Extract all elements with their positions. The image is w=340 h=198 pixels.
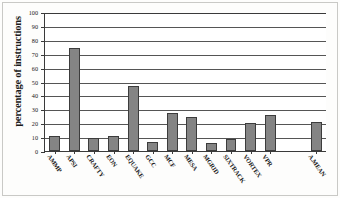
y-tick-label-80: 80 bbox=[32, 37, 38, 44]
bar-vpr bbox=[265, 115, 276, 151]
x-axis-label-gcc: GCC bbox=[144, 153, 158, 168]
bar-sixtrack bbox=[226, 139, 237, 151]
x-axis-label-mgrid: MGRID bbox=[203, 153, 221, 175]
y-tick-label-50: 50 bbox=[32, 79, 38, 86]
bar-mcf bbox=[167, 113, 178, 151]
x-axis-label-eon: EON bbox=[105, 153, 119, 168]
bar-vortex bbox=[245, 123, 256, 151]
y-axis-title: percentage of instructions bbox=[12, 2, 23, 142]
bar-chart-figure: percentage of instructions 0102030405060… bbox=[0, 0, 340, 198]
x-axis-labels: AMMPAPSICRAFTYEONEQUAKEGCCMCFMESAMGRIDSI… bbox=[44, 153, 326, 198]
y-tick-label-100: 100 bbox=[29, 9, 38, 16]
bar-ammp bbox=[49, 136, 60, 151]
x-axis-label-apsi: APSI bbox=[66, 153, 80, 169]
y-tick-label-20: 20 bbox=[32, 120, 38, 127]
bar-crafty bbox=[88, 138, 99, 151]
bar-eon bbox=[108, 136, 119, 151]
y-tick-label-70: 70 bbox=[32, 51, 38, 58]
x-axis-label-ammp: AMMP bbox=[46, 153, 63, 174]
y-tick-label-60: 60 bbox=[32, 65, 38, 72]
x-axis-label-mcf: MCF bbox=[164, 153, 178, 169]
y-tick-label-0: 0 bbox=[35, 148, 38, 155]
bar-gcc bbox=[147, 142, 158, 151]
bars-group bbox=[45, 13, 326, 151]
x-axis-label-crafty: CRAFTY bbox=[85, 153, 106, 178]
x-axis-label-amean: A.MEAN bbox=[307, 153, 327, 178]
bar-amean bbox=[311, 122, 322, 151]
x-axis-label-vpr: VPR bbox=[261, 153, 274, 168]
x-axis-label-mesa: MESA bbox=[183, 153, 199, 172]
bar-mgrid bbox=[206, 143, 217, 151]
y-tick-label-40: 40 bbox=[32, 92, 38, 99]
bar-mesa bbox=[186, 117, 197, 151]
plot-area: 0102030405060708090100 bbox=[44, 13, 326, 152]
y-tick-label-30: 30 bbox=[32, 106, 38, 113]
bar-apsi bbox=[69, 48, 80, 151]
bar-equake bbox=[128, 86, 139, 151]
y-tick-label-90: 90 bbox=[32, 23, 38, 30]
y-tick-label-10: 10 bbox=[32, 134, 38, 141]
x-axis-label-vortex: VORTEX bbox=[242, 153, 263, 179]
x-axis-label-equake: EQUAKE bbox=[124, 153, 145, 179]
